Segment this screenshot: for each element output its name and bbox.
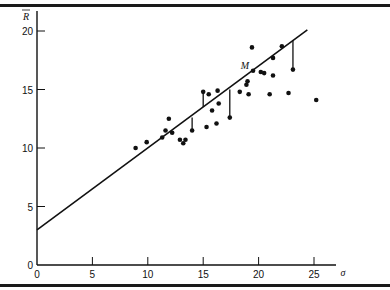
y-tick-label: 10 xyxy=(22,143,34,154)
x-tick-label: 15 xyxy=(198,269,210,280)
data-point xyxy=(215,88,220,93)
data-point xyxy=(144,140,149,145)
data-point xyxy=(271,73,276,78)
data-point xyxy=(201,90,206,95)
data-point xyxy=(160,135,165,140)
data-point xyxy=(314,98,319,103)
data-point xyxy=(170,130,175,135)
data-point xyxy=(133,146,138,151)
residual-segments xyxy=(192,40,293,130)
data-point xyxy=(251,68,256,73)
data-points xyxy=(133,44,318,150)
data-point xyxy=(250,45,255,50)
data-point xyxy=(286,91,291,96)
x-tick-label: 5 xyxy=(90,269,96,280)
scatter-chart: 051015202505101520 RσM xyxy=(0,0,390,290)
data-point xyxy=(216,101,221,106)
y-axis-label: R xyxy=(22,11,29,22)
y-tick-label: 5 xyxy=(27,202,33,213)
regression-line-segment xyxy=(37,30,307,230)
x-axis-label: σ xyxy=(341,267,347,278)
data-point xyxy=(178,138,183,143)
x-tick-label: 0 xyxy=(34,269,40,280)
data-point xyxy=(206,92,211,97)
data-point xyxy=(267,92,272,97)
data-point xyxy=(227,115,232,120)
data-point xyxy=(183,138,188,143)
data-point xyxy=(210,108,215,113)
data-point xyxy=(271,56,276,61)
ticks: 051015202505101520 xyxy=(22,26,320,280)
point-annotation-m: M xyxy=(240,60,250,71)
data-point xyxy=(163,128,168,133)
data-point xyxy=(280,44,285,49)
data-point xyxy=(291,67,296,72)
x-tick-label: 10 xyxy=(142,269,154,280)
data-point xyxy=(245,79,250,84)
data-point xyxy=(237,90,242,95)
data-point xyxy=(167,116,172,121)
x-tick-label: 20 xyxy=(253,269,265,280)
data-point xyxy=(190,128,195,133)
regression-line xyxy=(37,30,307,230)
y-tick-label: 0 xyxy=(27,260,33,271)
y-tick-label: 15 xyxy=(22,85,34,96)
data-point xyxy=(214,121,219,126)
y-tick-label: 20 xyxy=(22,26,34,37)
data-point xyxy=(246,92,251,97)
data-point xyxy=(204,125,209,130)
data-point xyxy=(262,71,267,76)
x-tick-label: 25 xyxy=(308,269,320,280)
